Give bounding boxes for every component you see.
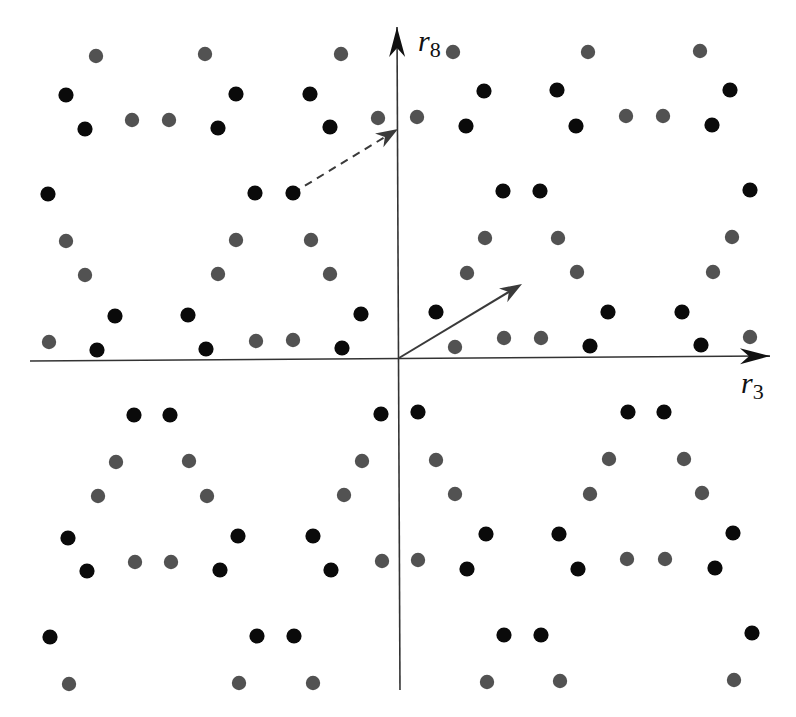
gray-weight-dot <box>706 265 720 279</box>
gray-weight-dot <box>164 555 178 569</box>
black-weight-dot <box>60 530 75 545</box>
black-weight-dot <box>323 562 338 577</box>
black-weight-dot <box>674 304 689 319</box>
gray-weight-dot <box>304 233 318 247</box>
gray-weight-dot <box>306 676 320 690</box>
gray-weight-dot <box>497 331 511 345</box>
gray-weight-dot <box>411 553 425 567</box>
black-weight-dot <box>334 340 349 355</box>
gray-weight-dot <box>323 267 337 281</box>
black-weight-dot <box>656 404 671 419</box>
gray-weight-dot <box>619 109 633 123</box>
axis-label-r: r <box>418 24 430 57</box>
gray-weight-dot <box>249 334 263 348</box>
black-weight-dot <box>373 406 388 421</box>
black-weight-dot <box>428 304 443 319</box>
black-weight-dot <box>89 342 104 357</box>
black-weight-dot <box>476 83 491 98</box>
gray-weight-dot <box>62 677 76 691</box>
black-weight-dot <box>249 628 264 643</box>
gray-weight-dot <box>656 109 670 123</box>
gray-weight-dot <box>89 49 103 63</box>
black-weight-dot <box>247 185 262 200</box>
gray-weight-dot <box>583 487 597 501</box>
axis-label-subscript: 3 <box>753 379 764 404</box>
gray-weight-dot <box>109 455 123 469</box>
black-weight-dot <box>707 560 722 575</box>
black-weight-dot <box>744 625 759 640</box>
black-weight-dot <box>228 86 243 101</box>
black-weight-dot <box>285 185 300 200</box>
black-weight-dot <box>322 119 337 134</box>
gray-weight-dot <box>337 488 351 502</box>
black-weight-dot <box>496 627 511 642</box>
black-weight-dot <box>570 561 585 576</box>
black-weight-dot <box>210 120 225 135</box>
black-weight-dot <box>305 528 320 543</box>
black-weight-dot <box>79 563 94 578</box>
gray-weight-dot <box>125 113 139 127</box>
black-weight-dot <box>725 525 740 540</box>
black-weight-dot <box>704 117 719 132</box>
black-weight-dot <box>478 526 493 541</box>
black-weight-dot <box>582 338 597 353</box>
weight-lattice-diagram <box>0 0 796 717</box>
gray-weight-dot <box>695 486 709 500</box>
black-weight-dot <box>162 407 177 422</box>
gray-weight-dot <box>446 45 460 59</box>
gray-weight-dot <box>410 110 424 124</box>
gray-weight-dot <box>658 552 672 566</box>
gray-weight-dot <box>211 267 225 281</box>
black-weight-dot <box>495 183 510 198</box>
black-weight-dot <box>212 562 227 577</box>
gray-weight-dot <box>693 44 707 58</box>
gray-weight-dot <box>162 113 176 127</box>
gray-weight-dot <box>355 454 369 468</box>
gray-weight-dot <box>371 111 385 125</box>
gray-weight-dot <box>534 331 548 345</box>
black-weight-dot <box>77 121 92 136</box>
black-weight-dot <box>230 528 245 543</box>
black-weight-dot <box>459 561 474 576</box>
black-weight-dot <box>568 118 583 133</box>
black-weight-dot <box>600 304 615 319</box>
black-weight-dot <box>353 306 368 321</box>
solid-vector-arrowhead-icon <box>499 284 522 302</box>
black-weight-dot <box>551 526 566 541</box>
gray-weight-dot <box>480 675 494 689</box>
gray-weight-dot <box>375 554 389 568</box>
black-weight-dot <box>107 308 122 323</box>
gray-weight-dot <box>429 453 443 467</box>
gray-weight-dot <box>448 487 462 501</box>
gray-weight-dot <box>727 673 741 687</box>
black-weight-dot <box>198 341 213 356</box>
gray-weight-dot <box>620 552 634 566</box>
gray-weight-dot <box>198 47 212 61</box>
gray-weight-dot <box>581 45 595 59</box>
gray-weight-dot <box>725 230 739 244</box>
gray-weight-dot <box>128 555 142 569</box>
gray-weight-dot <box>478 231 492 245</box>
gray-weight-dot <box>182 454 196 468</box>
gray-weight-dot <box>551 231 565 245</box>
gray-weight-dot <box>677 452 691 466</box>
dashed-vector-arrowhead-icon <box>375 129 398 147</box>
dashed-vector-line <box>293 136 386 193</box>
gray-weight-dot <box>334 47 348 61</box>
gray-weight-dot <box>570 265 584 279</box>
axis-label-r: r <box>741 366 753 399</box>
black-weight-dot <box>410 404 425 419</box>
gray-weight-dot <box>200 489 214 503</box>
black-weight-dot <box>458 118 473 133</box>
gray-weight-dot <box>232 676 246 690</box>
black-weight-dot <box>40 186 55 201</box>
black-weight-dot <box>533 627 548 642</box>
vertical-axis-label: r8 <box>418 26 441 61</box>
black-weight-dot <box>742 182 757 197</box>
black-weight-dot <box>549 82 564 97</box>
axis-label-subscript: 8 <box>430 37 441 62</box>
gray-weight-dot <box>743 330 757 344</box>
black-weight-dot <box>126 407 141 422</box>
black-weight-dot <box>532 183 547 198</box>
gray-weight-dot <box>78 268 92 282</box>
